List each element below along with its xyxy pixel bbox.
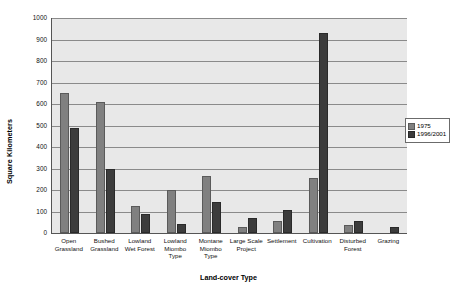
bar-group xyxy=(159,18,195,233)
bar[interactable] xyxy=(390,227,399,233)
bar[interactable] xyxy=(238,227,247,233)
bar[interactable] xyxy=(354,221,363,233)
bar-group xyxy=(301,18,337,233)
x-axis-tick-label: Lowland Wet Forest xyxy=(122,237,158,260)
bar-group xyxy=(88,18,124,233)
bar-group xyxy=(265,18,301,233)
x-axis-tick-label: Settlement xyxy=(264,237,300,260)
y-axis-tick-label: 400 xyxy=(36,144,47,150)
bars-layer xyxy=(52,18,407,233)
bar[interactable] xyxy=(106,169,115,233)
y-axis-tick-label: 900 xyxy=(36,36,47,42)
bar[interactable] xyxy=(167,190,176,233)
bar[interactable] xyxy=(344,225,353,233)
bar-chart: Square Kilometers 0100200300400500600700… xyxy=(0,0,454,297)
bar-group xyxy=(123,18,159,233)
legend-item[interactable]: 1975 xyxy=(408,123,446,130)
x-axis-tick-labels: Open GrasslandBushed GrasslandLowland We… xyxy=(51,237,406,260)
bar[interactable] xyxy=(177,224,186,233)
y-axis-tick-label: 1000 xyxy=(33,15,47,21)
x-axis-title: Land-cover Type xyxy=(51,273,406,282)
bar[interactable] xyxy=(60,93,69,233)
y-axis-tick-label: 800 xyxy=(36,58,47,64)
bar[interactable] xyxy=(131,206,140,233)
legend-label: 1975 xyxy=(417,123,431,129)
bar[interactable] xyxy=(202,176,211,233)
y-axis-tick-label: 700 xyxy=(36,79,47,85)
x-axis-tick-label: Grazing xyxy=(371,237,407,260)
x-axis-tick-label: Montane Miombo Type xyxy=(193,237,229,260)
bar-group xyxy=(194,18,230,233)
legend-swatch-icon xyxy=(408,131,415,138)
bar[interactable] xyxy=(141,214,150,233)
bar[interactable] xyxy=(248,218,257,233)
bar-group xyxy=(336,18,372,233)
x-axis-tick-label: Lowland Miombo Type xyxy=(158,237,194,260)
bar[interactable] xyxy=(319,33,328,233)
bar[interactable] xyxy=(212,202,221,233)
bar[interactable] xyxy=(309,178,318,233)
legend-label: 1996/2001 xyxy=(417,131,446,137)
plot-area xyxy=(51,18,407,234)
bar[interactable] xyxy=(70,128,79,233)
bar[interactable] xyxy=(96,102,105,233)
y-axis-title: Square Kilometers xyxy=(2,96,18,206)
legend-item[interactable]: 1996/2001 xyxy=(408,131,446,138)
x-axis-tick-label: Disturbed Forest xyxy=(335,237,371,260)
x-axis-tick-label: Bushed Grassland xyxy=(87,237,123,260)
y-axis-tick-label: 500 xyxy=(36,122,47,128)
y-axis-title-label: Square Kilometers xyxy=(6,118,15,183)
y-axis-tick-labels: 01002003004005006007008009001000 xyxy=(20,18,50,233)
chart-legend: 19751996/2001 xyxy=(405,118,450,143)
x-axis-tick-label: Open Grassland xyxy=(51,237,87,260)
y-axis-tick-label: 600 xyxy=(36,101,47,107)
x-axis-title-label: Land-cover Type xyxy=(200,273,257,282)
y-axis-tick-label: 100 xyxy=(36,208,47,214)
bar-group xyxy=(52,18,88,233)
bar-group xyxy=(372,18,408,233)
legend-swatch-icon xyxy=(408,123,415,130)
bar[interactable] xyxy=(283,210,292,233)
x-axis-tick-label: Cultivation xyxy=(300,237,336,260)
bar[interactable] xyxy=(273,221,282,233)
x-axis-tick-label: Large Scale Project xyxy=(229,237,265,260)
y-axis-tick-label: 300 xyxy=(36,165,47,171)
y-axis-tick-label: 200 xyxy=(36,187,47,193)
bar-group xyxy=(230,18,266,233)
y-axis-tick-label: 0 xyxy=(43,230,47,236)
